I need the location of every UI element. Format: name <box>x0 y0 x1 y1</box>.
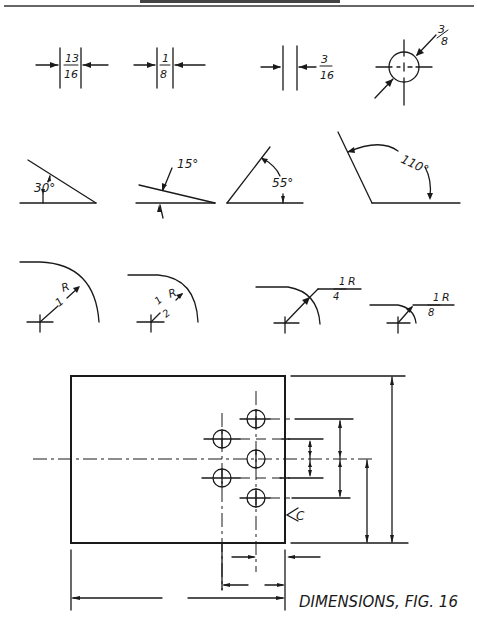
angle-55: 55° <box>227 147 303 203</box>
frac-den: 16 <box>64 68 78 81</box>
angle-30: 30° <box>20 160 96 203</box>
radius-1-8: 1 8 R <box>370 291 454 333</box>
radius-den: 2 <box>160 307 172 320</box>
frac-den: 16 <box>320 69 334 82</box>
angle-label: 15° <box>177 157 198 171</box>
angle-110: 110° <box>338 132 460 203</box>
frac-num: 3 <box>321 53 328 66</box>
radius-1: 1 R <box>20 262 99 332</box>
frac-num: 13 <box>65 52 79 65</box>
figure-caption: DIMENSIONS, FIG. 16 <box>299 593 458 611</box>
radius-num: 1 <box>433 292 439 303</box>
angle-15: 15° <box>136 157 215 218</box>
hole <box>240 410 270 428</box>
hole <box>202 469 240 487</box>
radius-value: 1 <box>53 295 67 309</box>
angle-label: 110° <box>399 152 431 177</box>
dim-13-16: 13 16 <box>36 48 108 88</box>
center-mark: C <box>287 508 305 523</box>
hole <box>204 430 240 448</box>
dimensions-figure: 13 16 1 8 3 16 3 <box>0 0 477 630</box>
radius-den: 8 <box>428 307 434 318</box>
radius-num: 1 <box>152 294 164 307</box>
page-header <box>4 0 474 6</box>
frac-num: 1 <box>162 52 169 65</box>
dim-3-16: 3 16 <box>261 46 334 90</box>
radius-unit: R <box>442 291 450 304</box>
dim-1-8: 1 8 <box>134 48 205 88</box>
radius-den: 4 <box>333 291 339 302</box>
dim-hole-3-8: 3 8 <box>375 23 448 105</box>
radius-unit: R <box>348 275 356 288</box>
frac-den: 8 <box>441 35 448 48</box>
radius-1-2: 1 2 R <box>128 275 198 332</box>
radius-unit: R <box>167 286 179 301</box>
frac-den: 8 <box>160 68 167 81</box>
center-mark-label: C <box>296 509 305 523</box>
radius-num: 1 <box>339 276 345 287</box>
radius-unit: R <box>60 280 72 295</box>
plate-drawing: C <box>33 376 408 610</box>
angle-label: 55° <box>272 176 293 190</box>
angle-label: 30° <box>34 181 55 195</box>
radius-1-4: 1 4 R <box>256 275 361 333</box>
hole <box>240 489 270 507</box>
